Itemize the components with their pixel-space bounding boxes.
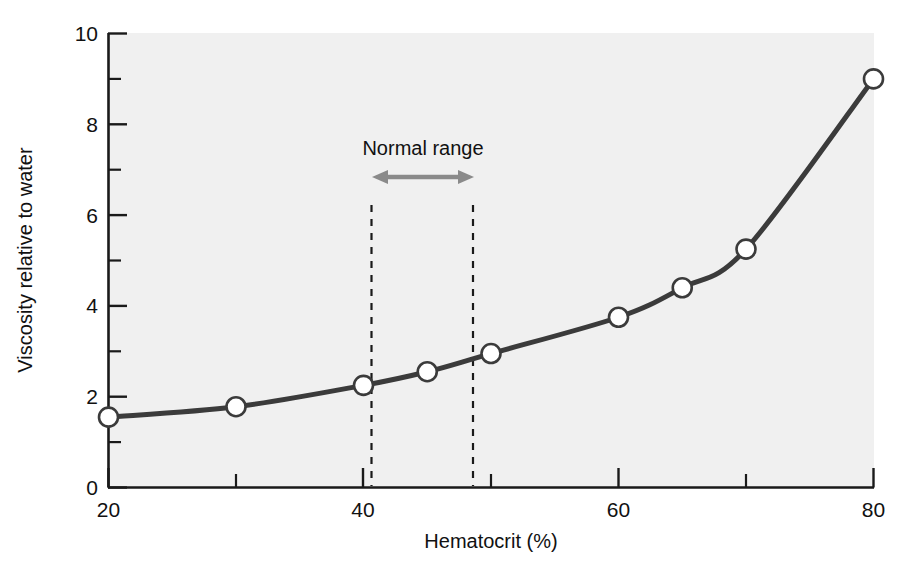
x-tick-label: 20: [97, 498, 120, 521]
y-axis-title: Viscosity relative to water: [14, 147, 36, 373]
y-tick-label: 10: [75, 22, 98, 45]
data-point: [482, 344, 501, 363]
x-tick-label: 40: [351, 498, 374, 521]
y-tick-label: 8: [86, 113, 98, 136]
y-tick-label: 6: [86, 204, 98, 227]
x-axis-title: Hematocrit (%): [424, 530, 557, 552]
y-axis-tick-labels: 10 8 6 4 2 0: [75, 22, 99, 499]
plot-background: [108, 33, 874, 487]
figure-container: 10 8 6 4 2 0 20 40 60 80 Hematocrit (%) …: [0, 0, 917, 562]
normal-range-label: Normal range: [362, 137, 483, 159]
x-tick-label: 60: [607, 498, 630, 521]
data-point: [673, 278, 692, 297]
x-axis-tick-labels: 20 40 60 80: [97, 498, 885, 521]
y-tick-label: 2: [86, 385, 98, 408]
data-point: [737, 240, 756, 259]
data-point: [227, 397, 246, 416]
y-tick-label: 0: [86, 476, 98, 499]
x-tick-label: 80: [862, 498, 885, 521]
data-point: [864, 69, 883, 88]
viscosity-hematocrit-chart: 10 8 6 4 2 0 20 40 60 80 Hematocrit (%) …: [0, 0, 917, 562]
data-point: [99, 408, 118, 427]
data-point: [354, 376, 373, 395]
y-tick-label: 4: [86, 294, 98, 317]
data-point: [609, 308, 628, 327]
data-point: [418, 362, 437, 381]
